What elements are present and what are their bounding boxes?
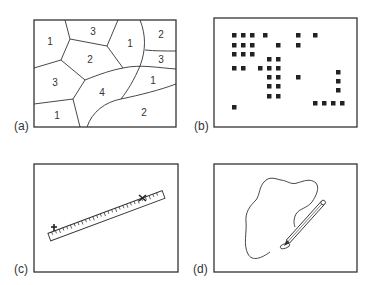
- region-label: 1: [47, 36, 53, 47]
- panel-a-label: (a): [14, 119, 29, 133]
- boundary: [121, 20, 145, 99]
- region-label: 3: [52, 77, 58, 88]
- panel-b: (b): [194, 18, 357, 133]
- region-label: 2: [87, 54, 93, 65]
- panel-d: (d): [193, 164, 357, 276]
- panel-d-label: (d): [193, 262, 208, 276]
- region-label: 1: [150, 75, 156, 86]
- figure-canvas: 1 3 1 2 2 3 3 1 4 1 2 (a): [0, 0, 371, 285]
- region-label: 1: [54, 110, 60, 121]
- raster-cells: [232, 33, 345, 110]
- boundary: [107, 46, 123, 68]
- region-label: 4: [99, 87, 105, 98]
- region-label: 2: [158, 29, 164, 40]
- panel-a: 1 3 1 2 2 3 3 1 4 1 2 (a): [14, 20, 176, 133]
- boundary: [87, 99, 121, 127]
- region-label: 3: [90, 26, 96, 37]
- boundary: [73, 99, 80, 127]
- pen-icon: [280, 199, 327, 250]
- panel-c: (c): [14, 164, 178, 276]
- panel-d-frame: [214, 164, 357, 272]
- boundary: [34, 60, 85, 104]
- region-label: 2: [141, 107, 147, 118]
- region-label: 3: [158, 54, 164, 65]
- ruler-icon: [48, 191, 165, 241]
- panel-b-label: (b): [194, 119, 209, 133]
- panel-c-label: (c): [14, 262, 28, 276]
- boundary: [145, 50, 176, 51]
- region-label: 1: [127, 38, 133, 49]
- boundary: [85, 66, 176, 80]
